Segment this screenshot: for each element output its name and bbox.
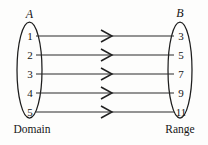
range-caption: Range — [165, 123, 194, 136]
range-element-4: 9 — [178, 87, 184, 99]
domain-element-5: 5 — [27, 106, 33, 118]
domain-element-4: 4 — [27, 87, 33, 99]
range-element-3: 7 — [178, 68, 184, 80]
diagram-canvas: A B 1 2 3 4 5 3 5 7 9 11 Domain Range — [0, 0, 208, 145]
range-element-2: 5 — [178, 49, 184, 61]
domain-element-3: 3 — [27, 68, 33, 80]
domain-caption: Domain — [13, 123, 50, 135]
domain-element-1: 1 — [27, 30, 33, 42]
range-element-1: 3 — [178, 30, 184, 42]
range-element-5: 11 — [176, 106, 187, 118]
range-set-label: B — [176, 6, 184, 20]
domain-element-2: 2 — [27, 49, 33, 61]
domain-set-label: A — [25, 7, 34, 21]
mapping-diagram: A B 1 2 3 4 5 3 5 7 9 11 Domain Range — [0, 0, 208, 145]
